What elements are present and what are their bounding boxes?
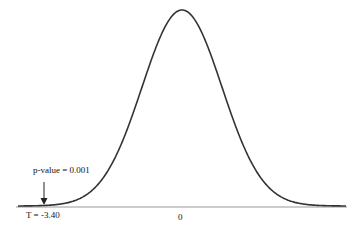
x-tick-zero: 0 — [178, 212, 183, 222]
pvalue-arrow-head — [41, 198, 48, 205]
density-plot — [0, 0, 360, 232]
pvalue-label: p-value = 0.001 — [33, 165, 90, 175]
tstat-label: T = -3.40 — [26, 210, 60, 220]
density-curve — [18, 10, 346, 206]
